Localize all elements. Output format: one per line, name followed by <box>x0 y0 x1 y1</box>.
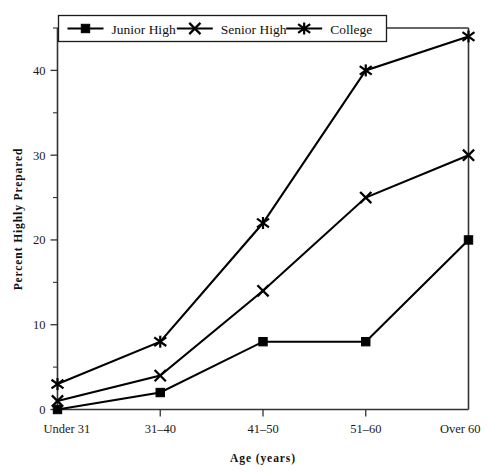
data-point <box>53 405 61 413</box>
line-chart: 010203040 Under 3131–4041–5051–60Over 60… <box>0 0 500 472</box>
y-tick-label: 20 <box>33 233 46 247</box>
x-tick-label: 51–60 <box>350 422 381 436</box>
x-axis-title: Age (years) <box>230 452 296 465</box>
y-tick-label: 30 <box>33 149 46 163</box>
chart-container: 010203040 Under 3131–4041–5051–60Over 60… <box>0 0 500 472</box>
data-point <box>257 217 269 229</box>
data-point <box>362 337 370 345</box>
data-point <box>463 30 475 42</box>
data-point <box>360 64 372 76</box>
series-line <box>58 240 469 410</box>
chart-legend: Junior HighSenior HighCollege <box>59 16 387 42</box>
y-axis-ticks <box>51 28 58 410</box>
y-tick-label: 40 <box>33 64 46 78</box>
data-point <box>464 236 472 244</box>
y-axis-tick-labels: 010203040 <box>33 64 46 417</box>
series-senior-high <box>52 150 474 407</box>
x-tick-label: Under 31 <box>44 422 91 436</box>
series-layer <box>52 30 475 413</box>
x-axis-ticks <box>160 410 366 417</box>
legend-marker <box>81 24 89 32</box>
y-tick-label: 10 <box>33 318 46 332</box>
y-tick-label: 0 <box>39 403 45 417</box>
legend-label: Senior High <box>221 22 287 37</box>
legend-label: College <box>330 22 372 37</box>
x-tick-label: Over 60 <box>440 422 481 436</box>
data-point <box>259 337 267 345</box>
data-point <box>156 388 164 396</box>
data-point <box>257 285 268 296</box>
data-point <box>154 336 166 348</box>
series-line <box>58 155 469 401</box>
x-axis-tick-labels: Under 3131–4041–5051–60Over 60 <box>44 422 481 436</box>
data-point <box>52 378 64 390</box>
series-line <box>58 36 469 384</box>
legend-label: Junior High <box>112 22 176 37</box>
x-tick-label: 41–50 <box>247 422 278 436</box>
x-tick-label: 31–40 <box>145 422 176 436</box>
y-axis-title: Percent Highly Prepared <box>12 148 25 291</box>
data-point <box>360 192 371 203</box>
series-college <box>52 30 475 390</box>
